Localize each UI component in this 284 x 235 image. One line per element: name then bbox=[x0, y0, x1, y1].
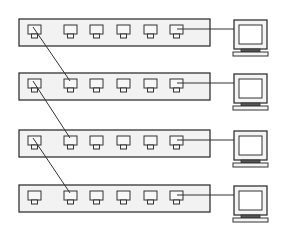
network-diagram bbox=[0, 0, 284, 235]
switch-2 bbox=[19, 73, 210, 100]
computer-monitor-icon bbox=[233, 186, 268, 222]
computer-monitor-icon bbox=[233, 74, 268, 110]
computer-monitor-icon bbox=[233, 20, 268, 56]
switch-3 bbox=[19, 130, 210, 157]
computer-monitor-icon bbox=[233, 131, 268, 167]
switch-1 bbox=[19, 19, 210, 46]
switch-4 bbox=[19, 185, 210, 212]
